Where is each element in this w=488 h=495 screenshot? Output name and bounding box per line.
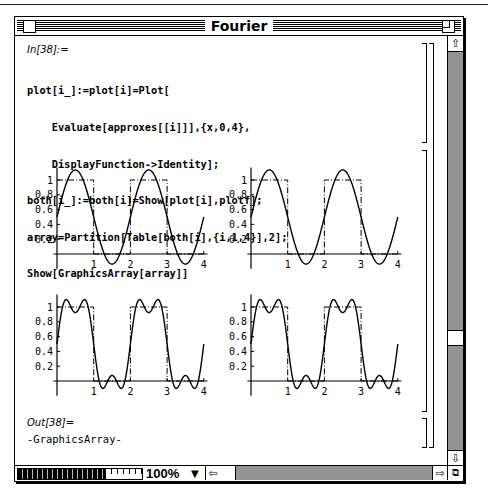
code-line: Evaluate[approxes[[i]]],{x,0,4},: [27, 121, 287, 133]
y-tick-label: 0.6: [229, 204, 247, 215]
grow-box-icon[interactable]: ⧉: [447, 466, 463, 480]
y-tick-label: 0.6: [229, 331, 247, 342]
x-tick-label: 4: [395, 386, 401, 397]
y-tick-label: 0.2: [229, 361, 247, 372]
magnification-ruler[interactable]: [17, 468, 143, 480]
square-wave: [251, 307, 398, 381]
x-tick-label: 3: [358, 386, 364, 397]
y-tick-label: 0.4: [229, 346, 247, 357]
input-label: In[38]:=: [27, 44, 69, 55]
vertical-scroll-thumb[interactable]: [448, 330, 463, 346]
y-tick-label: 0.2: [229, 234, 247, 245]
x-tick-label: 3: [358, 259, 364, 270]
y-tick-label: 0.2: [35, 361, 53, 372]
triangle-down-icon[interactable]: ▼: [191, 466, 199, 481]
square-wave: [251, 180, 398, 254]
notebook-window: Fourier In[38]:= plot[i_]:=plot[i]=Plot[…: [14, 16, 464, 482]
vertical-scrollbar[interactable]: ⇧ ⇩: [447, 36, 463, 466]
plot-top-right: 12340.20.40.60.81: [229, 167, 402, 270]
horizontal-scroll-thumb[interactable]: [220, 466, 236, 480]
x-tick-label: 2: [321, 259, 327, 270]
y-tick-label: 0.8: [35, 189, 53, 200]
y-tick-label: 0.2: [35, 234, 53, 245]
square-wave: [57, 307, 204, 381]
square-wave: [57, 180, 204, 254]
graphics-array[interactable]: 12340.20.40.60.8112340.20.40.60.8112340.…: [15, 156, 435, 416]
y-tick-label: 1: [47, 302, 53, 313]
x-tick-label: 4: [201, 259, 207, 270]
x-tick-label: 4: [201, 386, 207, 397]
window-title-wrap: Fourier: [15, 17, 463, 35]
x-tick-label: 1: [91, 259, 97, 270]
y-tick-label: 0.6: [35, 331, 53, 342]
x-tick-label: 3: [164, 259, 170, 270]
x-tick-label: 1: [91, 386, 97, 397]
group-bracket[interactable]: [429, 43, 434, 448]
scroll-down-arrow-icon[interactable]: ⇩: [448, 450, 463, 466]
notebook-content[interactable]: In[38]:= plot[i_]:=plot[i]=Plot[ Evaluat…: [15, 36, 447, 461]
x-tick-label: 3: [164, 386, 170, 397]
y-tick-label: 0.6: [35, 204, 53, 215]
scroll-left-arrow-icon[interactable]: ⇦: [205, 466, 221, 480]
y-tick-label: 0.4: [229, 219, 247, 230]
x-tick-label: 1: [285, 259, 291, 270]
x-tick-label: 2: [127, 259, 133, 270]
window-title: Fourier: [205, 18, 274, 34]
vertical-scroll-track[interactable]: [448, 52, 463, 450]
x-tick-label: 2: [321, 386, 327, 397]
magnification-ticks-light: [106, 469, 142, 474]
y-tick-label: 0.8: [229, 189, 247, 200]
y-tick-label: 0.8: [35, 316, 53, 327]
x-tick-label: 2: [127, 386, 133, 397]
zoom-level[interactable]: 100%: [146, 466, 179, 481]
input-cell-bracket[interactable]: [422, 43, 427, 143]
y-tick-label: 1: [47, 175, 53, 186]
bottom-status-bar: 100% ▼ ⇦ ⇨ ⧉: [15, 465, 463, 481]
output-cell-bracket[interactable]: [422, 418, 427, 448]
y-tick-label: 0.4: [35, 219, 53, 230]
zoom-box-icon[interactable]: [442, 20, 455, 33]
y-tick-label: 0.8: [229, 316, 247, 327]
x-tick-label: 4: [395, 259, 401, 270]
plot-top-left: 12340.20.40.60.81: [35, 167, 208, 270]
plot-bottom-left: 12340.20.40.60.81: [35, 294, 208, 397]
desktop-menubar-edge: [0, 4, 488, 5]
graphics-cell-bracket[interactable]: [422, 150, 427, 412]
y-tick-label: 1: [241, 302, 247, 313]
scroll-up-arrow-icon[interactable]: ⇧: [448, 36, 463, 52]
y-tick-label: 0.4: [35, 346, 53, 357]
horizontal-scroll-track[interactable]: [236, 466, 432, 480]
y-tick-label: 1: [241, 175, 247, 186]
output-value: -GraphicsArray-: [27, 433, 122, 445]
x-tick-label: 1: [285, 386, 291, 397]
scroll-right-arrow-icon[interactable]: ⇨: [432, 466, 447, 480]
code-line: plot[i_]:=plot[i]=Plot[: [27, 84, 287, 96]
output-label: Out[38]=: [27, 417, 74, 428]
plot-bottom-right: 12340.20.40.60.81: [229, 294, 402, 397]
title-bar[interactable]: Fourier: [15, 17, 463, 36]
